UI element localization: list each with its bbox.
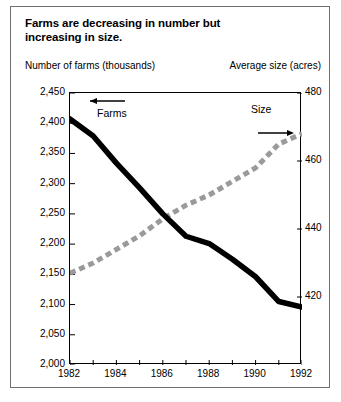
- series-line-farms: [70, 119, 302, 307]
- right-tick-label: 440: [305, 223, 341, 233]
- x-axis-ticklabels: 198219841986198819901992: [69, 368, 301, 384]
- right-tick-label: 420: [305, 291, 341, 301]
- left-tick-label: 2,150: [19, 268, 65, 278]
- left-tick-label: 2,200: [19, 238, 65, 248]
- left-axis-ticks: [70, 93, 75, 365]
- left-tick-label: 2,050: [19, 329, 65, 339]
- left-axis-caption: Number of farms (thousands): [25, 60, 155, 72]
- left-tick-label: 2,100: [19, 299, 65, 309]
- right-axis-ticklabels: 480460440420: [305, 92, 341, 364]
- left-tick-label: 2,450: [19, 87, 65, 97]
- left-tick-label: 2,350: [19, 147, 65, 157]
- x-tick-label: 1984: [104, 368, 126, 380]
- right-tick-label: 480: [305, 87, 341, 97]
- left-tick-label: 2,250: [19, 208, 65, 218]
- plot-svg: [70, 93, 302, 365]
- right-tick-label: 460: [305, 155, 341, 165]
- right-axis-ticks: [297, 93, 302, 297]
- x-axis-ticks: [70, 360, 302, 365]
- x-tick-label: 1986: [151, 368, 173, 380]
- chart-title-line-2: increasing in size.: [25, 30, 305, 44]
- x-tick-label: 1988: [197, 368, 219, 380]
- series-line-size: [70, 134, 302, 273]
- chart-figure: Farms are decreasing in number but incre…: [10, 6, 330, 388]
- x-tick-label: 1990: [243, 368, 265, 380]
- chart-title-line-1: Farms are decreasing in number but: [25, 17, 220, 29]
- plot-area: [69, 92, 301, 364]
- series-label-farms: Farms: [97, 108, 127, 119]
- size-arrow-icon: [258, 130, 294, 136]
- left-axis-ticklabels: 2,4502,4002,3502,3002,2502,2002,1502,100…: [15, 92, 65, 364]
- left-tick-label: 2,300: [19, 178, 65, 188]
- left-tick-label: 2,400: [19, 117, 65, 127]
- x-tick-label: 1982: [58, 368, 80, 380]
- series-label-size: Size: [251, 104, 271, 115]
- x-tick-label: 1992: [290, 368, 312, 380]
- right-axis-caption: Average size (acres): [229, 60, 321, 72]
- chart-title: Farms are decreasing in number but incre…: [25, 16, 305, 44]
- farms-arrow-icon: [90, 98, 125, 104]
